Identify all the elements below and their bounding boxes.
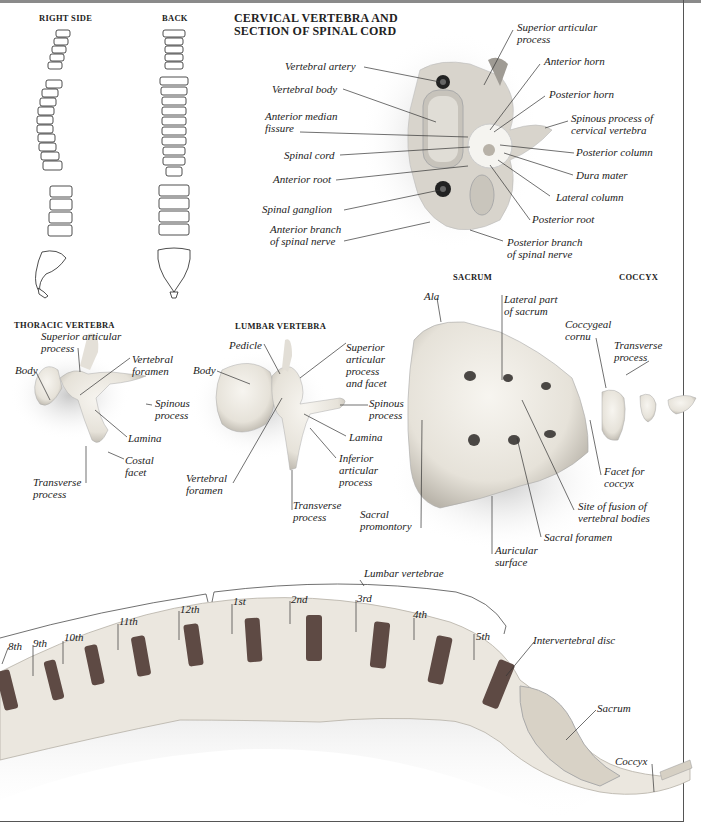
label-dura-mater: Dura mater — [576, 169, 628, 181]
label-lumbar-4th: 4th — [413, 608, 427, 620]
label-posterior-root: Posterior root — [532, 213, 594, 225]
label-lumbar-5th: 5th — [476, 630, 490, 642]
label-auricular-surface: Auricular surface — [495, 544, 538, 568]
label-ala: Ala — [424, 290, 439, 302]
heading-cervical-line2: SECTION OF SPINAL CORD — [234, 25, 398, 38]
label-spinous-process-cervical: Spinous process of cervical vertebra — [571, 112, 653, 136]
label-coccygeal-cornu: Coccygeal cornu — [565, 318, 611, 342]
label-anterior-branch: Anterior branch of spinal nerve — [270, 223, 341, 247]
label-lateral-column: Lateral column — [556, 191, 624, 203]
lower-spine-image — [0, 598, 692, 820]
label-superior-articular-process: Superior articular process — [517, 21, 597, 45]
back-spine-drawing — [158, 30, 191, 298]
label-sacral-promontory: Sacral promontory — [360, 508, 412, 532]
label-spinal-ganglion: Spinal ganglion — [262, 203, 332, 215]
label-lumbar-pedicle: Pedicle — [229, 339, 262, 351]
label-thoracic-11th: 11th — [119, 615, 138, 627]
heading-sacrum: SACRUM — [453, 272, 492, 282]
label-posterior-column: Posterior column — [576, 146, 653, 158]
label-thoracic-9th: 9th — [33, 637, 47, 649]
label-thoracic-10th: 10th — [64, 631, 84, 643]
label-posterior-branch: Posterior branch of spinal nerve — [507, 236, 582, 260]
heading-right-side: RIGHT SIDE — [39, 13, 92, 23]
label-sacrum-lower: Sacrum — [597, 702, 631, 714]
label-lumbar-transverse: Transverse process — [293, 499, 341, 523]
label-lumbar-body: Body — [193, 364, 216, 376]
heading-back: BACK — [162, 13, 188, 23]
label-lateral-part-sacrum: Lateral part of sacrum — [504, 293, 557, 317]
heading-cervical: CERVICAL VERTEBRA AND SECTION OF SPINAL … — [234, 12, 398, 38]
coccyx-image — [602, 390, 696, 440]
label-vertebral-artery: Vertebral artery — [285, 60, 356, 72]
label-lumbar-spinous: Spinous process — [369, 397, 404, 421]
label-lumbar-lamina: Lamina — [349, 431, 383, 443]
right-side-spine-drawing — [36, 30, 73, 298]
label-coccyx-lower: Coccyx — [615, 755, 647, 767]
label-lumbar-3rd: 3rd — [357, 592, 372, 604]
label-facet-for-coccyx: Facet for coccyx — [604, 465, 645, 489]
label-lumbar-1st: 1st — [233, 595, 246, 607]
label-thoracic-spinous: Spinous process — [155, 397, 190, 421]
sacrum-image — [390, 322, 610, 550]
label-lumbar-inferior-articular: Inferior articular process — [339, 452, 378, 488]
label-lumbar-superior-articular: Superior articular process and facet — [346, 341, 387, 389]
label-anterior-median-fissure: Anterior median fissure — [265, 110, 337, 134]
label-coccyx-transverse: Transverse process — [614, 339, 662, 363]
label-lumbar-2nd: 2nd — [291, 593, 308, 605]
label-site-of-fusion: Site of fusion of vertebral bodies — [578, 500, 650, 524]
label-thoracic-superior-articular: Superior articular process — [41, 330, 121, 354]
label-vertebral-body: Vertebral body — [272, 83, 337, 95]
cervical-vertebra-image — [360, 30, 552, 250]
label-anterior-horn: Anterior horn — [544, 55, 605, 67]
label-lumbar-vertebral-foramen: Vertebral foramen — [186, 472, 227, 496]
heading-lumbar: LUMBAR VERTEBRA — [235, 321, 326, 331]
label-thoracic-12th: 12th — [180, 603, 200, 615]
label-thoracic-transverse: Transverse process — [33, 476, 81, 500]
label-thoracic-body: Body — [15, 364, 38, 376]
label-anterior-root: Anterior root — [273, 173, 331, 185]
heading-thoracic: THORACIC VERTEBRA — [14, 320, 115, 330]
label-thoracic-lamina: Lamina — [128, 432, 162, 444]
label-posterior-horn: Posterior horn — [549, 88, 614, 100]
label-intervertebral-disc: Intervertebral disc — [533, 634, 615, 646]
heading-coccyx: COCCYX — [619, 272, 658, 282]
label-thoracic-8th: 8th — [8, 640, 22, 652]
lumbar-vertebra-image — [190, 339, 345, 470]
label-spinal-cord: Spinal cord — [284, 149, 335, 161]
label-sacral-foramen: Sacral foramen — [544, 531, 612, 543]
label-thoracic-vertebral-foramen: Vertebral foramen — [132, 353, 173, 377]
label-lumbar-vertebrae: Lumbar vertebrae — [364, 567, 444, 579]
label-thoracic-costal-facet: Costal facet — [125, 454, 154, 478]
